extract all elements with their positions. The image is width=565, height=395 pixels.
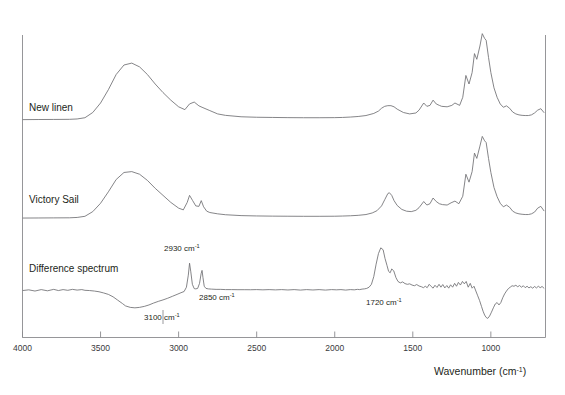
spectrum-trace-new-linen [23, 34, 544, 120]
ftir-spectra-figure: 4000350030002500200015001000 New linen V… [0, 0, 565, 395]
x-tick-label-2500: 2500 [247, 343, 266, 353]
x-tick-label-3000: 3000 [169, 343, 188, 353]
x-tick-label-4000: 4000 [13, 343, 32, 353]
x-axis-tick-labels: 4000350030002500200015001000 [13, 343, 501, 353]
annotation-3100: 3100 cm-1 [144, 312, 180, 322]
annotation-2930: 2930 cm-1 [164, 243, 200, 253]
series-label-new-linen: New linen [29, 102, 73, 113]
spectra-plot: 4000350030002500200015001000 New linen V… [0, 0, 565, 395]
spectrum-trace-victory-sail [23, 136, 544, 218]
x-tick-label-1000: 1000 [481, 343, 500, 353]
x-tick-label-3500: 3500 [91, 343, 110, 353]
series-label-difference-spectrum: Difference spectrum [29, 263, 118, 274]
annotation-1720: 1720 cm-1 [366, 297, 402, 307]
annotation-2850: 2850 cm-1 [199, 292, 235, 302]
spectrum-trace-difference-spectrum [23, 248, 544, 319]
traces-group [23, 34, 544, 319]
x-tick-label-1500: 1500 [403, 343, 422, 353]
series-label-victory-sail: Victory Sail [29, 194, 79, 205]
x-tick-label-2000: 2000 [325, 343, 344, 353]
x-axis-title: Wavenumber (cm-1) [434, 365, 526, 377]
